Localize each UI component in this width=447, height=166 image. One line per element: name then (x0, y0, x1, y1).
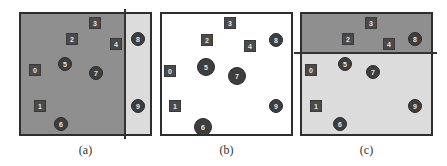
circle-node-7: 7 (366, 65, 380, 79)
square-node-3: 3 (365, 17, 377, 29)
square-node-3: 3 (89, 17, 101, 29)
square-node-1: 1 (34, 100, 46, 112)
circle-node-9: 9 (269, 99, 283, 113)
split-line-horizontal (294, 52, 437, 54)
region-full (162, 14, 291, 134)
circle-node-7: 7 (89, 66, 103, 80)
panel-b: 0123456789 (160, 12, 293, 136)
square-node-0: 0 (305, 64, 317, 76)
circle-node-7: 7 (228, 67, 246, 85)
split-line-vertical (124, 9, 126, 139)
circle-node-9: 9 (408, 99, 422, 113)
square-node-2: 2 (201, 34, 213, 46)
circle-node-8: 8 (131, 32, 145, 46)
square-node-0: 0 (29, 64, 41, 76)
region-bottom (302, 53, 431, 134)
caption-c: (c) (347, 143, 387, 158)
circle-node-5: 5 (338, 57, 352, 71)
circle-node-6: 6 (54, 117, 68, 131)
circle-node-6: 6 (194, 118, 212, 136)
square-node-1: 1 (169, 100, 181, 112)
square-node-1: 1 (310, 100, 322, 112)
square-node-2: 2 (342, 33, 354, 45)
square-node-0: 0 (164, 65, 176, 77)
circle-node-6: 6 (333, 117, 347, 131)
panel-c: 0123456789 (300, 12, 433, 136)
square-node-4: 4 (110, 38, 122, 50)
square-node-4: 4 (383, 38, 395, 50)
caption-a: (a) (66, 143, 106, 158)
circle-node-5: 5 (197, 58, 215, 76)
square-node-4: 4 (244, 40, 256, 52)
caption-b: (b) (207, 143, 247, 158)
square-node-3: 3 (224, 17, 236, 29)
square-node-2: 2 (66, 33, 78, 45)
panel-a: 0123456789 (19, 12, 152, 136)
circle-node-5: 5 (58, 57, 72, 71)
circle-node-8: 8 (269, 33, 283, 47)
circle-node-8: 8 (408, 32, 422, 46)
circle-node-9: 9 (131, 99, 145, 113)
